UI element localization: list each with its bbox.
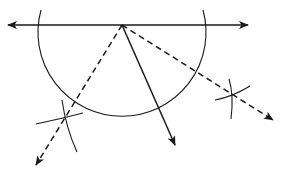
solid-ray: [122, 25, 175, 145]
left-dashed-bisector-ray: [36, 25, 122, 165]
geometry-construction-diagram: [0, 0, 285, 170]
right-dashed-bisector-ray: [122, 25, 273, 120]
left-construction-arc-2: [62, 100, 77, 152]
right-construction-arc-2: [229, 79, 232, 119]
left-construction-arc-1: [36, 113, 83, 124]
